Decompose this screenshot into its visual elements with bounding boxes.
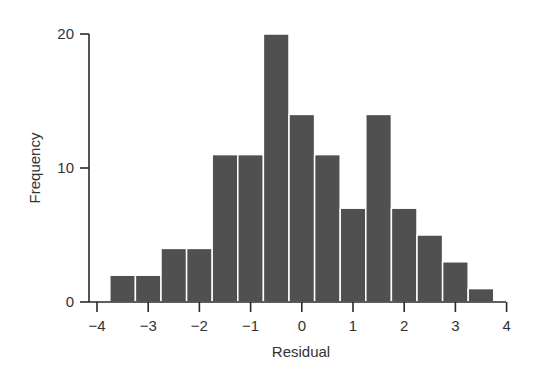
y-tick-label: 20 bbox=[57, 25, 74, 42]
y-axis-ticks: 01020 bbox=[57, 25, 89, 310]
x-tick-label: 3 bbox=[451, 317, 459, 334]
y-axis-title: Frequency bbox=[26, 132, 43, 203]
histogram-bar bbox=[443, 262, 469, 302]
x-tick-label: 0 bbox=[298, 317, 306, 334]
y-tick-label: 0 bbox=[66, 293, 74, 310]
histogram-bar bbox=[289, 114, 315, 302]
histogram-bar bbox=[366, 114, 392, 302]
histogram-bars bbox=[110, 34, 494, 302]
x-axis-ticks: −4−3−2−101234 bbox=[88, 302, 510, 334]
x-tick-label: 2 bbox=[400, 317, 408, 334]
x-tick-label: −3 bbox=[140, 317, 157, 334]
histogram-bar bbox=[468, 289, 494, 302]
histogram-chart: 01020 −4−3−2−101234 Residual Frequency bbox=[0, 0, 541, 370]
histogram-bar bbox=[110, 275, 136, 302]
histogram-bar bbox=[187, 248, 213, 302]
histogram-bar bbox=[340, 208, 366, 302]
histogram-bar bbox=[212, 155, 238, 302]
histogram-bar bbox=[135, 275, 161, 302]
histogram-bar bbox=[161, 248, 187, 302]
histogram-bar bbox=[315, 155, 341, 302]
histogram-bar bbox=[417, 235, 443, 302]
histogram-bar bbox=[263, 34, 289, 302]
y-tick-label: 10 bbox=[57, 159, 74, 176]
x-tick-label: −4 bbox=[88, 317, 105, 334]
x-tick-label: −2 bbox=[191, 317, 208, 334]
x-tick-label: 4 bbox=[502, 317, 510, 334]
x-tick-label: 1 bbox=[349, 317, 357, 334]
x-axis-title: Residual bbox=[272, 343, 330, 360]
x-tick-label: −1 bbox=[242, 317, 259, 334]
histogram-bar bbox=[391, 208, 417, 302]
histogram-bar bbox=[238, 155, 264, 302]
